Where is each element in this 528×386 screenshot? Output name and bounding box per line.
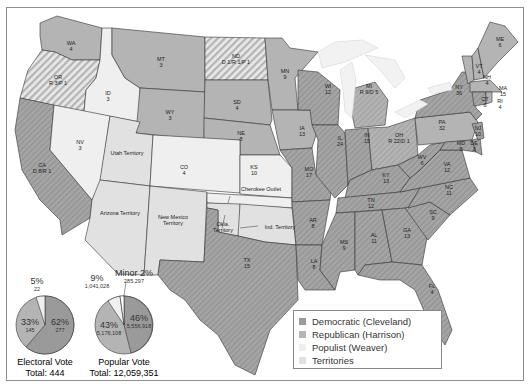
electoral-vote-title: Electoral VoteTotal: 444	[17, 357, 73, 379]
label-ind-territory: Ind. Territory	[264, 224, 296, 230]
populist-swatch	[299, 344, 306, 351]
territory-co	[150, 135, 240, 193]
ev-democratic-label: 62%277	[51, 317, 69, 333]
label-wi: WI12	[325, 83, 332, 95]
label-ma: MA15	[499, 85, 507, 97]
label-ri: RI4	[497, 98, 503, 110]
democratic-swatch	[299, 318, 306, 325]
republican-swatch	[299, 331, 306, 338]
label-cherokee-outlet: Cherokee Outlet	[241, 186, 281, 192]
label-va: VA12	[444, 161, 451, 173]
label-sd: SD4	[233, 99, 241, 111]
legend-item-territories: Territories	[299, 354, 441, 366]
label-ky: KY13	[382, 172, 389, 184]
label-la: LA8	[311, 258, 318, 270]
label-wy: WY3	[166, 109, 175, 121]
label-in: IN15	[364, 132, 370, 144]
territory-arizona	[85, 180, 150, 275]
label-wa: WA4	[67, 40, 76, 52]
ev-populist-label: 5%22	[30, 276, 43, 292]
label-md: MD8	[457, 140, 466, 152]
label-oh: OHR 22/D 1	[388, 132, 410, 144]
label-ks: KS10	[250, 164, 257, 176]
label-me: ME6	[496, 36, 504, 48]
label-mt: MT3	[157, 56, 165, 68]
label-nc: NC11	[445, 184, 453, 196]
label-co: CO4	[180, 164, 188, 176]
pv-democratic-label: 46%5,556,918	[127, 313, 151, 329]
pv-populist-label: 9%1,041,028	[85, 273, 109, 289]
territories-swatch	[299, 357, 306, 364]
label-pa-main: PA32	[439, 119, 446, 131]
label-mn: MN9	[281, 68, 290, 80]
label-ny: NY36	[455, 84, 463, 96]
label-mi: MIR 9/D 5	[360, 83, 379, 95]
label-nh: NH4	[483, 74, 491, 86]
label-ms: MS9	[340, 239, 348, 251]
label-sc: SC9	[429, 209, 437, 221]
label-utah-territory: Utah Territory	[111, 150, 144, 156]
label-wv: WV6	[418, 154, 427, 166]
label-ia: IA13	[299, 125, 305, 137]
label-okla-territory: Okla. Territory	[207, 221, 239, 233]
label-ne: NE8	[237, 130, 245, 142]
legend: Democratic (Cleveland) Republican (Harri…	[293, 310, 442, 369]
label-id: ID3	[105, 90, 111, 102]
pv-minor-label: Minor 2%285,297	[115, 268, 153, 284]
label-arizona-territory: Arizona Territory	[100, 210, 140, 216]
label-ct: CT6	[481, 96, 488, 108]
label-ar: AR8	[309, 217, 317, 229]
label-al: AL11	[371, 232, 378, 244]
label-or: ORR 3/P 1	[49, 74, 67, 86]
pv-republican-label: 43%5,176,108	[97, 320, 121, 336]
label-vt: VT4	[475, 63, 482, 75]
legend-item-republican: Republican (Harrison)	[299, 328, 441, 340]
label-nv: NV3	[76, 139, 84, 151]
label-fl: FL4	[429, 283, 435, 295]
label-new-mexico-territory: New Mexico Territory	[150, 214, 196, 226]
label-nj: NJ10	[475, 125, 482, 137]
legend-item-populist: Populist (Weaver)	[299, 341, 441, 353]
popular-vote-title: Popular VoteTotal: 12,059,351	[89, 357, 158, 379]
label-ga: GA13	[403, 227, 411, 239]
label-de: DE3	[470, 140, 478, 152]
label-tx: TX15	[243, 257, 250, 269]
label-nd: NDD 1/R 1/P 1	[222, 53, 250, 65]
label-mo: MO17	[305, 166, 314, 178]
label-ca: CAD 8/R 1	[33, 162, 52, 174]
state-me	[478, 22, 518, 78]
legend-item-democratic: Democratic (Cleveland)	[299, 315, 441, 327]
label-tn: TN12	[367, 197, 374, 209]
ev-republican-label: 33%145	[21, 317, 39, 333]
label-il: IL24	[337, 135, 343, 147]
